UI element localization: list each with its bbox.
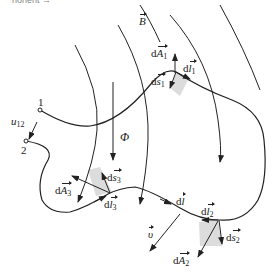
diagram-canvas: nonent → <box>0 0 275 280</box>
label-u12: u12 <box>11 116 25 129</box>
label-ds3: ds3 <box>107 172 121 185</box>
label-dl: dl <box>176 196 185 207</box>
label-dA3: dA3 <box>55 185 71 198</box>
label-B: B <box>139 16 146 27</box>
label-point-2: 2 <box>21 145 27 156</box>
v-arrow <box>150 214 180 251</box>
field-line-2 <box>118 25 148 204</box>
surface-patch-2 <box>199 220 222 246</box>
field-line-4 <box>220 5 260 90</box>
u12-arrow <box>29 122 37 139</box>
label-dA1: dA1 <box>151 48 167 61</box>
label-ds2: ds2 <box>226 232 240 245</box>
label-dl2: dl2 <box>201 206 214 219</box>
label-v: υ <box>148 229 153 240</box>
terminal-2 <box>24 139 28 143</box>
label-dl1: dl1 <box>183 63 196 76</box>
label-dA2: dA2 <box>173 255 189 268</box>
label-dl3: dl3 <box>104 199 117 212</box>
label-point-1: 1 <box>38 97 44 108</box>
label-ds1: ds1 <box>151 76 165 89</box>
label-phi: Φ <box>120 131 129 143</box>
terminal-1 <box>38 108 42 112</box>
